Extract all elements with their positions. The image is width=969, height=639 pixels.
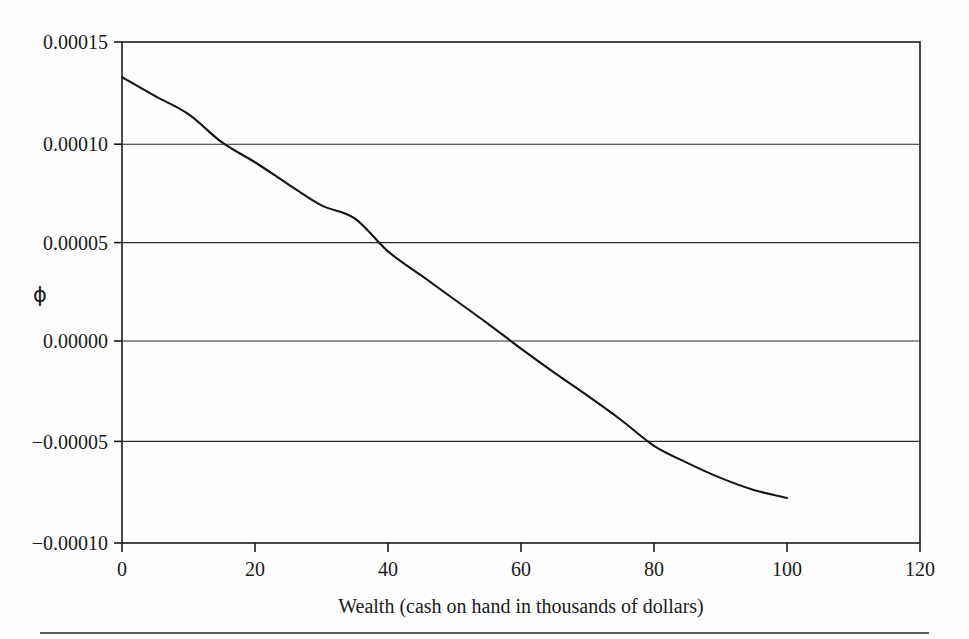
figure-canvas: 0.00015 0.00010 0.00005 0.00000 −0.00005… bbox=[0, 0, 969, 639]
y-axis-ticks bbox=[114, 42, 122, 543]
xtick-label-2: 40 bbox=[378, 558, 398, 580]
ytick-label-0: 0.00015 bbox=[43, 31, 108, 53]
grid-lines bbox=[122, 144, 920, 441]
x-axis-title: Wealth (cash on hand in thousands of dol… bbox=[338, 595, 704, 618]
data-series-phi bbox=[122, 77, 787, 498]
xtick-label-1: 20 bbox=[245, 558, 265, 580]
xtick-label-4: 80 bbox=[644, 558, 664, 580]
ytick-label-4: −0.00005 bbox=[32, 431, 108, 453]
x-axis-tick-labels: 0 20 40 60 80 100 120 bbox=[117, 558, 935, 580]
xtick-label-3: 60 bbox=[511, 558, 531, 580]
ytick-label-1: 0.00010 bbox=[43, 133, 108, 155]
footer-rule bbox=[0, 630, 969, 636]
ytick-label-3: 0.00000 bbox=[43, 330, 108, 352]
chart-plot: 0.00015 0.00010 0.00005 0.00000 −0.00005… bbox=[0, 0, 969, 639]
xtick-label-5: 100 bbox=[772, 558, 802, 580]
x-axis-ticks bbox=[122, 543, 920, 552]
xtick-label-0: 0 bbox=[117, 558, 127, 580]
plot-frame bbox=[122, 42, 920, 543]
xtick-label-6: 120 bbox=[905, 558, 935, 580]
ytick-label-5: −0.00010 bbox=[32, 532, 108, 554]
ytick-label-2: 0.00005 bbox=[43, 232, 108, 254]
y-axis-title: ϕ bbox=[33, 283, 47, 307]
